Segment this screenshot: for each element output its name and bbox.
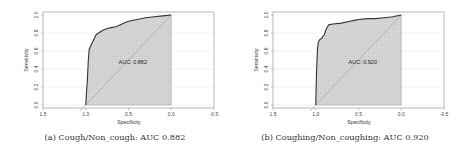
y-tick-label: 0.2 [263, 83, 269, 90]
y-tick-label: 1.0 [263, 11, 269, 18]
auc-annotation: AUC: 0.920 [349, 59, 377, 65]
x-tick-label: 0.0 [168, 111, 175, 117]
y-tick-label: 0.4 [33, 65, 39, 72]
x-tick-label: 1.5 [40, 111, 47, 117]
y-tick-label: 0.4 [263, 65, 269, 72]
y-tick-label: 0.0 [263, 101, 269, 108]
caption-b: (b) Coughing/Non_coughing: AUC 0.920 [230, 132, 460, 142]
y-tick-label: 0.8 [263, 29, 269, 36]
x-tick-label: 0.5 [355, 111, 362, 117]
y-tick-label: 0.6 [33, 47, 39, 54]
y-axis-label: Sensitivity [23, 48, 29, 72]
x-tick-label: 0.0 [398, 111, 405, 117]
y-tick-label: 0.2 [33, 83, 39, 90]
x-tick-label: -0.5 [210, 111, 219, 117]
y-axis-label: Sensitivity [253, 48, 259, 72]
x-tick-label: -0.5 [440, 111, 449, 117]
x-tick-label: 1.0 [82, 111, 89, 117]
x-tick-label: 1.5 [270, 111, 277, 117]
y-tick-label: 1.0 [33, 11, 39, 18]
roc-chart-a: AUC: 0.8821.51.00.50.0-0.50.00.20.40.60.… [0, 0, 230, 130]
y-tick-label: 0.6 [263, 47, 269, 54]
y-tick-label: 0.0 [33, 101, 39, 108]
caption-a: (a) Cough/Non_cough: AUC 0.882 [0, 132, 230, 142]
roc-panel-a: AUC: 0.8821.51.00.50.0-0.50.00.20.40.60.… [0, 0, 230, 154]
y-tick-label: 0.8 [33, 29, 39, 36]
auc-annotation: AUC: 0.882 [119, 59, 147, 65]
x-tick-label: 0.5 [125, 111, 132, 117]
roc-chart-b: AUC: 0.9201.51.00.50.0-0.50.00.20.40.60.… [230, 0, 460, 130]
x-axis-label: Specificity [347, 119, 371, 125]
x-tick-label: 1.0 [312, 111, 319, 117]
x-axis-label: Specificity [117, 119, 141, 125]
roc-panel-b: AUC: 0.9201.51.00.50.0-0.50.00.20.40.60.… [230, 0, 460, 154]
